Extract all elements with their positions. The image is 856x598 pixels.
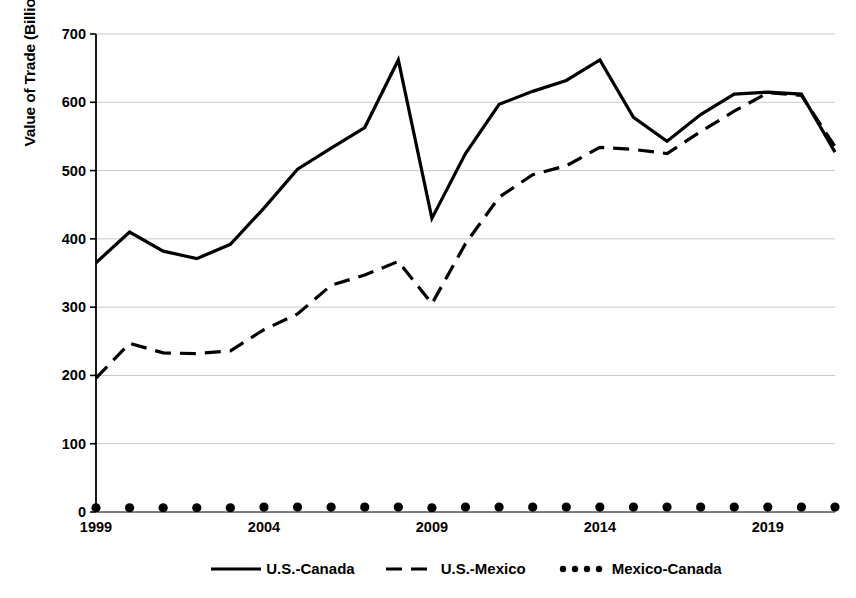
dotted-line-swatch	[556, 561, 608, 575]
legend-item-mexico-canada[interactable]: Mexico-Canada	[556, 561, 722, 576]
data-point-marker	[192, 503, 201, 512]
x-axis-tick-label: 2019	[752, 520, 784, 535]
data-point-marker	[91, 503, 100, 512]
data-point-marker	[730, 502, 739, 511]
data-point-marker	[763, 502, 772, 511]
data-point-marker	[427, 503, 436, 512]
x-axis-tick-label: 2004	[248, 520, 280, 535]
legend-item-u-s-canada[interactable]: U.S.-Canada	[210, 561, 354, 576]
data-point-marker	[562, 502, 571, 511]
data-series-layer	[91, 60, 839, 512]
series-u-s-mexico	[96, 93, 835, 378]
axis-lines	[96, 34, 835, 512]
data-point-marker	[696, 502, 705, 511]
solid-line-swatch	[210, 561, 262, 575]
legend-label: U.S.-Canada	[266, 561, 354, 576]
series-mexico-canada	[91, 502, 839, 512]
data-point-marker	[327, 502, 336, 511]
data-point-marker	[528, 502, 537, 511]
gridlines	[96, 34, 835, 444]
x-axis-tick-label: 2014	[584, 520, 616, 535]
data-point-marker	[595, 502, 604, 511]
data-point-marker	[259, 502, 268, 511]
data-point-marker	[494, 502, 503, 511]
legend-label: U.S.-Mexico	[441, 561, 526, 576]
trade-value-line-chart: Value of Trade (Billions USD) 0100200300…	[0, 0, 856, 598]
data-point-marker	[461, 502, 470, 511]
x-axis-tick-label: 1999	[80, 520, 112, 535]
data-point-marker	[293, 502, 302, 511]
x-axis-tick-label: 2009	[416, 520, 448, 535]
data-point-marker	[360, 502, 369, 511]
data-point-marker	[125, 503, 134, 512]
plot-area	[0, 0, 856, 598]
data-point-marker	[159, 503, 168, 512]
legend-item-u-s-mexico[interactable]: U.S.-Mexico	[385, 561, 526, 576]
data-point-marker	[394, 502, 403, 511]
data-point-marker	[830, 502, 839, 511]
data-point-marker	[662, 502, 671, 511]
data-point-marker	[797, 502, 806, 511]
dashed-line-swatch	[385, 561, 437, 575]
data-point-marker	[629, 502, 638, 511]
data-point-marker	[226, 503, 235, 512]
series-u-s-canada	[96, 60, 835, 263]
legend-label: Mexico-Canada	[612, 561, 722, 576]
chart-legend: U.S.-CanadaU.S.-MexicoMexico-Canada	[96, 551, 836, 585]
